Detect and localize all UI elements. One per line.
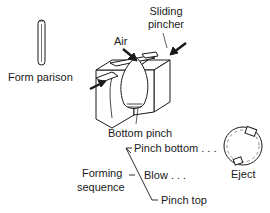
- blow-molding-diagram: [0, 0, 270, 213]
- label-blow: Blow . . .: [144, 169, 186, 181]
- parison-tube-icon: [38, 20, 45, 65]
- label-eject: Eject: [231, 168, 255, 180]
- label-forming-sequence-line2: sequence: [77, 181, 125, 193]
- label-sliding-pincher: Sliding pincher: [145, 5, 187, 30]
- label-forming-sequence: Forming sequence: [77, 167, 125, 193]
- mold-block-icon: [96, 52, 170, 128]
- label-sliding-pincher-line1: Sliding: [145, 5, 187, 17]
- label-form-parison: Form parison: [8, 71, 73, 83]
- label-air: Air: [114, 35, 127, 47]
- label-forming-sequence-line1: Forming: [77, 167, 125, 179]
- ejected-bottle-icon: [224, 126, 262, 165]
- label-sliding-pincher-line2: pincher: [145, 18, 187, 30]
- label-bottom-pinch: Bottom pinch: [108, 127, 172, 139]
- label-pinch-bottom: Pinch bottom . . .: [134, 142, 217, 154]
- label-pinch-top: Pinch top: [161, 194, 207, 206]
